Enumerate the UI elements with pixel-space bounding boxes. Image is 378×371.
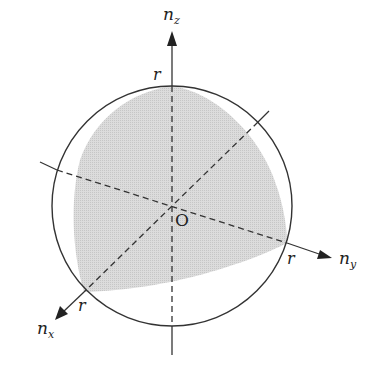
z-arrow-icon (167, 31, 177, 46)
shaded-region (74, 86, 287, 292)
ny-radius-label: r (287, 249, 296, 268)
nz-label: nz (163, 4, 180, 27)
ny-label: ny (339, 248, 357, 271)
nx-radius-label: r (78, 296, 87, 315)
y-arrow-icon (317, 250, 332, 259)
diagram-canvas: nz r ny r nx r O (0, 0, 378, 371)
origin-label: O (175, 210, 189, 230)
nz-radius-label: r (153, 65, 162, 84)
x-arrow-icon (55, 306, 68, 320)
nx-label: nx (37, 318, 55, 341)
